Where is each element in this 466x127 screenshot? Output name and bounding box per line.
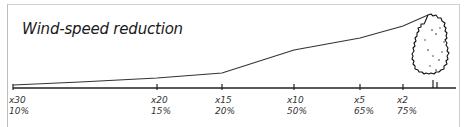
- tick-percent: 75%: [397, 106, 417, 117]
- tick-percent: 50%: [287, 106, 307, 117]
- tree-icon: [412, 14, 449, 88]
- tick-multiplier: x30: [9, 95, 29, 106]
- tick-label-x30: x30 10%: [9, 95, 29, 117]
- tick-label-x15: x15 20%: [215, 95, 235, 117]
- tick-multiplier: x2: [397, 95, 417, 106]
- tick-multiplier: x20: [151, 95, 171, 106]
- wind-speed-line: [13, 15, 428, 85]
- tick-multiplier: x5: [354, 95, 374, 106]
- tick-percent: 65%: [354, 106, 374, 117]
- tick-label-x5: x5 65%: [354, 95, 374, 117]
- tick-multiplier: x10: [287, 95, 307, 106]
- tick-percent: 10%: [9, 106, 29, 117]
- tick-multiplier: x15: [215, 95, 235, 106]
- x-axis-ticks: [13, 84, 403, 90]
- tick-percent: 15%: [151, 106, 171, 117]
- tick-label-x20: x20 15%: [151, 95, 171, 117]
- tick-percent: 20%: [215, 106, 235, 117]
- tick-label-x10: x10 50%: [287, 95, 307, 117]
- tick-label-x2: x2 75%: [397, 95, 417, 117]
